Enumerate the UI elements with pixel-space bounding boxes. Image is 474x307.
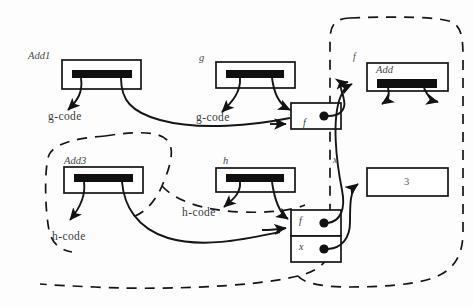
f-cell-upper-label: f <box>303 117 306 128</box>
region-outer-dashed <box>40 17 463 288</box>
g-box-shape <box>216 62 295 88</box>
add3-box-name: Add3 <box>64 155 86 166</box>
add1-box-shape <box>62 60 141 89</box>
h-code-label-mid: h-code <box>182 206 216 218</box>
closure-x-label: x <box>333 155 337 165</box>
diagram-vector-layer <box>0 0 474 307</box>
h-code-label-left: h-code <box>52 230 86 242</box>
x-cell-lower-label: x <box>299 241 303 252</box>
closure-f-label: f <box>353 52 356 62</box>
add-box-name: Add <box>376 64 393 75</box>
add3-box-shape <box>64 167 143 193</box>
diagram-canvas: Add1 g Add3 h Add g-code g-code h-code h… <box>0 0 474 307</box>
h-box-name: h <box>223 155 228 166</box>
g-code-label-mid: g-code <box>196 111 230 123</box>
g-box-name: g <box>199 52 204 63</box>
f-cell-lower-label: f <box>299 215 302 226</box>
add1-box-name: Add1 <box>28 50 50 61</box>
hcode-into-f-lower <box>262 228 286 230</box>
three-box-value: 3 <box>404 176 409 187</box>
h-box-shape <box>216 168 295 192</box>
g-code-label-left: g-code <box>48 110 82 122</box>
